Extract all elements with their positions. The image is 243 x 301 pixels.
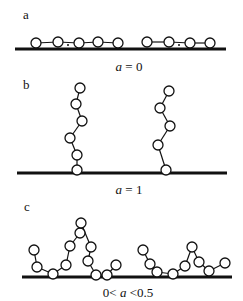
caption-suffix: = 1: [122, 182, 142, 197]
monomer-bead: [76, 218, 86, 228]
monomer-bead: [165, 121, 175, 131]
monomer-bead: [138, 245, 148, 255]
monomer-bead: [155, 103, 165, 113]
marker-dot: [178, 44, 180, 46]
monomer-bead: [91, 270, 101, 280]
panel-a-label: a: [23, 8, 29, 21]
panel-b-caption: a = 1: [116, 183, 143, 196]
monomer-bead: [53, 37, 63, 47]
monomer-bead: [205, 38, 215, 48]
monomer-bead: [185, 38, 195, 48]
monomer-bead: [153, 140, 163, 150]
monomer-bead: [83, 256, 93, 266]
polymer-chain: [29, 218, 121, 280]
monomer-bead: [86, 242, 96, 252]
monomer-bead: [75, 83, 85, 93]
polymer-chain: [153, 86, 175, 175]
caption-suffix: <0.5: [126, 285, 153, 300]
monomer-bead: [32, 262, 42, 272]
monomer-bead: [29, 245, 39, 255]
monomer-bead: [31, 38, 41, 48]
monomer-bead: [65, 133, 75, 143]
monomer-bead: [75, 228, 85, 238]
marker-dot: [67, 44, 69, 46]
monomer-bead: [164, 86, 174, 96]
monomer-bead: [187, 242, 197, 252]
monomer-bead: [113, 38, 123, 48]
monomer-bead: [71, 99, 81, 109]
monomer-bead: [77, 116, 87, 126]
monomer-bead: [204, 266, 214, 276]
panel-b: [17, 83, 227, 175]
monomer-bead: [161, 165, 171, 175]
caption-suffix: = 0: [122, 59, 142, 74]
monomer-bead: [164, 37, 174, 47]
monomer-bead: [61, 260, 71, 270]
monomer-bead: [145, 259, 155, 269]
monomer-bead: [74, 38, 84, 48]
monomer-bead: [93, 37, 103, 47]
panel-c-label: c: [24, 200, 30, 213]
panel-c: [22, 218, 232, 280]
monomer-bead: [72, 150, 82, 160]
monomer-bead: [111, 260, 121, 270]
monomer-bead: [102, 270, 112, 280]
polymer-chain: [138, 242, 230, 279]
panel-c-caption: 0< a <0.5: [103, 286, 153, 299]
monomer-bead: [180, 261, 190, 271]
polymer-chain: [31, 37, 123, 48]
polymer-chain: [65, 83, 87, 175]
monomer-bead: [65, 241, 75, 251]
monomer-bead: [48, 269, 58, 279]
monomer-bead: [220, 258, 230, 268]
monomer-bead: [168, 269, 178, 279]
panel-b-label: b: [23, 78, 30, 91]
panel-a: [15, 37, 226, 49]
monomer-bead: [142, 37, 152, 47]
monomer-bead: [152, 267, 162, 277]
polymer-chain: [142, 37, 215, 48]
monomer-bead: [194, 257, 204, 267]
caption-prefix: 0<: [103, 285, 120, 300]
panel-a-caption: a = 0: [116, 60, 143, 73]
polymer-conformation-figure: [0, 0, 243, 301]
monomer-bead: [72, 165, 82, 175]
